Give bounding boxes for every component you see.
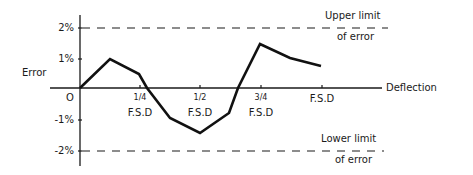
x-tick-frac-quarter: 1/4 bbox=[134, 93, 147, 102]
x-tick-unit-quarter: F.S.D bbox=[128, 107, 153, 118]
y-tick-label-neg1: -1% bbox=[55, 114, 74, 125]
upper-limit-label-line2: of error bbox=[337, 31, 375, 42]
x-tick-unit-half: F.S.D bbox=[188, 107, 213, 118]
error-deflection-diagram: 2% 1% -1% -2% O Error Deflection 1/4 1/2… bbox=[0, 0, 473, 175]
y-tick-label-2: 2% bbox=[58, 22, 74, 33]
y-axis-title: Error bbox=[22, 67, 47, 78]
origin-label: O bbox=[66, 92, 74, 103]
lower-limit-label-line2: of error bbox=[335, 154, 373, 165]
upper-limit-label-line1: Upper limit bbox=[325, 10, 381, 21]
x-tick-unit-full: F.S.D bbox=[310, 93, 335, 104]
lower-limit-label-line1: Lower limit bbox=[321, 133, 376, 144]
x-axis-title: Deflection bbox=[386, 82, 437, 93]
x-tick-frac-three-quarter: 3/4 bbox=[255, 93, 268, 102]
x-tick-frac-half: 1/2 bbox=[194, 93, 207, 102]
y-tick-label-1: 1% bbox=[58, 53, 74, 64]
y-tick-label-neg2: -2% bbox=[55, 145, 74, 156]
x-tick-unit-three-quarter: F.S.D bbox=[249, 107, 274, 118]
